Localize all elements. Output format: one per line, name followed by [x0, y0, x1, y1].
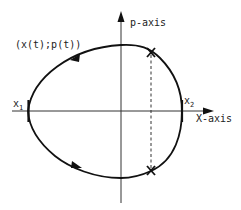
x1-label: x1: [13, 98, 23, 112]
x2-label: x2: [184, 95, 194, 109]
curve-label: (x(t);p(t)): [15, 39, 81, 50]
x1-subscript: 1: [19, 104, 23, 112]
p-axis-arrow-icon: [118, 11, 125, 22]
x2-subscript: 2: [190, 101, 194, 109]
x-axis-label: X-axis: [196, 113, 232, 124]
direction-arrow-bottom-icon: [71, 161, 82, 168]
p-axis-label: p-axis: [130, 17, 166, 28]
phase-diagram: p-axis X-axis (x(t);p(t)) x1 x2: [0, 0, 241, 210]
